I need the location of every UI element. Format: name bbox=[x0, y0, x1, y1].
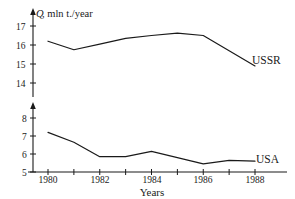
ussr-ytick-label-15: 15 bbox=[16, 60, 26, 70]
series-label-ussr: USSR bbox=[252, 54, 281, 66]
usa-ytick-label-8: 8 bbox=[22, 114, 27, 124]
series-label-usa: USA bbox=[256, 153, 280, 165]
xtick-label-1986: 1986 bbox=[194, 175, 213, 185]
usa-ytick-label-5: 5 bbox=[22, 168, 27, 178]
ussr-ytick-label-17: 17 bbox=[16, 22, 26, 32]
y-axis-label-units: , mln t./year bbox=[42, 8, 93, 19]
ussr-ytick-label-14: 14 bbox=[16, 79, 26, 89]
ussr-data-line bbox=[48, 33, 255, 66]
xtick-label-1984: 1984 bbox=[143, 175, 162, 185]
usa-ytick-label-7: 7 bbox=[22, 132, 27, 142]
line-chart-svg: Q , mln t./year 17 16 15 14 USSR bbox=[0, 0, 295, 199]
usa-ytick-label-6: 6 bbox=[22, 150, 27, 160]
ussr-y-axis-arrow bbox=[30, 8, 36, 15]
chart-figure: Q , mln t./year 17 16 15 14 USSR bbox=[0, 0, 295, 199]
ussr-ytick-label-16: 16 bbox=[16, 41, 26, 51]
usa-data-line bbox=[48, 132, 255, 164]
usa-y-axis-arrow bbox=[30, 102, 36, 109]
xtick-label-1982: 1982 bbox=[91, 175, 110, 185]
x-axis-title: Years bbox=[140, 186, 165, 198]
panel-ussr: 17 16 15 14 USSR bbox=[16, 8, 281, 97]
xtick-label-1988: 1988 bbox=[246, 175, 265, 185]
xtick-label-1980: 1980 bbox=[39, 175, 58, 185]
panel-usa: 8 7 6 5 1980 1982 1984 1986 1988 USA Yea… bbox=[22, 102, 287, 198]
